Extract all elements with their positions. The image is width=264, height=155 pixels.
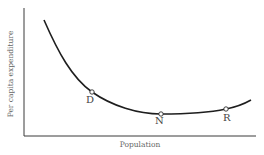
point-r-label: R — [223, 112, 231, 123]
point-n-label: N — [155, 115, 164, 126]
point-d-label: D — [86, 94, 94, 105]
expenditure-curve — [44, 20, 251, 114]
y-axis-label: Per capita expenditure — [6, 30, 15, 117]
x-axis-label: Population — [120, 140, 161, 149]
cost-curve-chart: D N R Population Per capita expenditure — [0, 0, 264, 155]
point-r-marker — [224, 107, 228, 111]
